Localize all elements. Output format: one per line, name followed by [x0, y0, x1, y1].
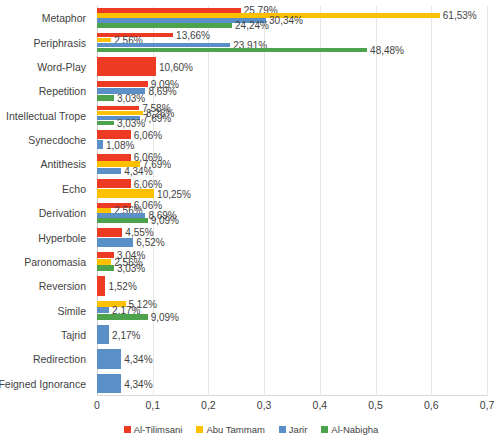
x-tick-label: 0,3 — [257, 399, 272, 411]
bar-row: 1,08% — [97, 140, 487, 149]
bar-value-label: 4,34% — [121, 165, 152, 176]
bar-abu-tammam[interactable] — [97, 189, 154, 198]
bar-value-label: 9,09% — [148, 215, 179, 226]
bar-value-label: 4,34% — [121, 354, 152, 365]
bar-jarir[interactable] — [97, 307, 109, 313]
bar-row: 2,56% — [97, 38, 487, 42]
bar-row: 4,34% — [97, 349, 487, 368]
bar-row: 9,09% — [97, 314, 487, 320]
bar-value-label: 3,03% — [114, 263, 145, 274]
legend-label: Al-Nabigha — [331, 424, 378, 435]
bar-row: 3,04% — [97, 252, 487, 258]
legend-item[interactable]: Al-Nabigha — [321, 424, 378, 435]
bar-jarir[interactable] — [97, 374, 121, 393]
bar-chart: MetaphorPeriphrasisWord-PlayRepetitionIn… — [0, 0, 502, 447]
bar-jarir[interactable] — [97, 238, 133, 247]
bar-row: 3,03% — [97, 121, 487, 125]
legend-color-swatch — [279, 426, 286, 433]
bar-jarir[interactable] — [97, 43, 230, 47]
y-axis-label: Tajrid — [61, 330, 86, 341]
bar-row: 48,48% — [97, 48, 487, 52]
bar-al-nabigha[interactable] — [97, 95, 114, 101]
y-axis-label: Periphrasis — [33, 37, 86, 48]
x-tick-label: 0,1 — [145, 399, 160, 411]
bar-row: 25,79% — [97, 8, 487, 12]
bar-jarir[interactable] — [97, 325, 109, 344]
bar-row: 13,66% — [97, 33, 487, 37]
bar-value-label: 10,25% — [154, 188, 191, 199]
bar-al-tilimsani[interactable] — [97, 130, 131, 139]
legend-label: Abu Tammam — [206, 424, 264, 435]
bar-abu-tammam[interactable] — [97, 259, 111, 265]
y-axis-label: Word-Play — [37, 61, 86, 72]
y-axis-label: Paronomasia — [24, 256, 86, 267]
y-axis-label: Reversion — [39, 281, 86, 292]
bar-row: 2,17% — [97, 325, 487, 344]
bar-al-nabigha[interactable] — [97, 218, 148, 222]
bar-value-label: 9,09% — [148, 312, 179, 323]
y-axis-label: Derivation — [39, 208, 86, 219]
bar-row: 6,06% — [97, 130, 487, 139]
x-tick-label: 0 — [94, 399, 100, 411]
legend-item[interactable]: Al-Tilimsani — [124, 424, 183, 435]
bar-al-tilimsani[interactable] — [97, 228, 122, 237]
bar-row: 6,52% — [97, 238, 487, 247]
bar-row: 24,24% — [97, 23, 487, 27]
bar-row: 2,56% — [97, 259, 487, 265]
bar-abu-tammam[interactable] — [97, 208, 111, 212]
bar-al-tilimsani[interactable] — [97, 276, 105, 295]
legend-label: Jarir — [289, 424, 307, 435]
bar-al-nabigha[interactable] — [97, 23, 232, 27]
bar-al-tilimsani[interactable] — [97, 57, 156, 76]
bar-al-tilimsani[interactable] — [97, 8, 241, 12]
bar-al-tilimsani[interactable] — [97, 154, 131, 160]
bar-al-nabigha[interactable] — [97, 314, 148, 320]
bar-row: 4,34% — [97, 374, 487, 393]
x-tick-label: 0,5 — [368, 399, 383, 411]
bar-value-label: 2,17% — [109, 329, 140, 340]
legend-item[interactable]: Abu Tammam — [196, 424, 264, 435]
y-axis-label: Antithesis — [40, 159, 86, 170]
bar-row: 7,69% — [97, 116, 487, 120]
bar-value-label: 24,24% — [232, 20, 269, 31]
x-tick-label: 0,2 — [201, 399, 216, 411]
bar-value-label: 10,60% — [156, 61, 193, 72]
bar-row: 1,52% — [97, 276, 487, 295]
bar-jarir[interactable] — [97, 349, 121, 368]
bar-value-label: 48,48% — [367, 44, 404, 55]
bar-al-nabigha[interactable] — [97, 265, 114, 271]
y-axis-label: Metaphor — [42, 13, 86, 24]
bar-row: 23,91% — [97, 43, 487, 47]
bar-abu-tammam[interactable] — [97, 38, 111, 42]
bar-row: 6,06% — [97, 203, 487, 207]
x-tick-label: 0,4 — [313, 399, 328, 411]
bar-al-tilimsani[interactable] — [97, 179, 131, 188]
y-axis-label: Echo — [62, 183, 86, 194]
plot-area: 25,79%61,53%30,34%24,24%13,66%2,56%23,91… — [97, 6, 487, 396]
bar-value-label: 6,06% — [131, 129, 162, 140]
bar-jarir[interactable] — [97, 168, 121, 174]
bar-value-label: 1,52% — [105, 281, 136, 292]
bar-row: 8,69% — [97, 88, 487, 94]
y-axis-label: Synecdoche — [28, 135, 86, 146]
bar-al-nabigha[interactable] — [97, 121, 114, 125]
bar-row: 10,25% — [97, 189, 487, 198]
bar-al-tilimsani[interactable] — [97, 106, 139, 110]
x-tick-label: 0,6 — [424, 399, 439, 411]
chart-legend: Al-TilimsaniAbu TammamJarirAl-Nabigha — [0, 424, 502, 435]
bar-row: 5,12% — [97, 301, 487, 307]
y-axis-category-labels: MetaphorPeriphrasisWord-PlayRepetitionIn… — [0, 6, 92, 396]
x-axis-tick-labels: 00,10,20,30,40,50,60,7 — [97, 399, 487, 415]
bar-value-label: 6,52% — [133, 237, 164, 248]
bar-row: 6,06% — [97, 179, 487, 188]
bar-abu-tammam[interactable] — [97, 111, 143, 115]
legend-item[interactable]: Jarir — [279, 424, 307, 435]
y-axis-label: Repetition — [39, 86, 86, 97]
bar-al-tilimsani[interactable] — [97, 81, 148, 87]
bar-row: 3,03% — [97, 95, 487, 101]
bar-value-label: 3,03% — [114, 117, 145, 128]
bar-row: 9,09% — [97, 218, 487, 222]
bar-jarir[interactable] — [97, 213, 145, 217]
bar-al-nabigha[interactable] — [97, 48, 367, 52]
legend-label: Al-Tilimsani — [134, 424, 183, 435]
